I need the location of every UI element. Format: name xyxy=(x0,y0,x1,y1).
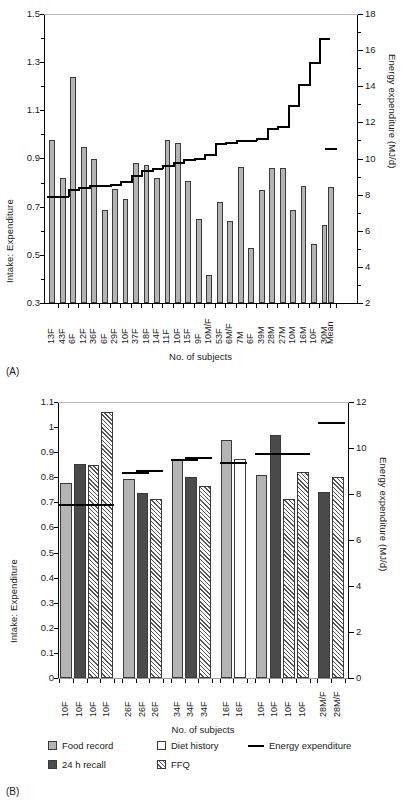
y2-tick-label-b: 4 xyxy=(356,581,376,591)
x-tick-label-b: 26F xyxy=(138,685,147,717)
legend-swatch-line xyxy=(248,745,264,747)
x-tick-a xyxy=(89,304,90,308)
y-tick-label-b: 0.3 xyxy=(24,598,54,608)
bar xyxy=(60,483,72,678)
energy-expenditure-line-mean xyxy=(325,148,337,150)
x-tick-label-a: 16M xyxy=(299,310,308,344)
x-tick-a xyxy=(256,304,257,308)
y2-tick-a xyxy=(358,195,363,196)
x-tick-label-a: 53F xyxy=(215,310,224,344)
bar xyxy=(332,477,344,679)
x-tick-a xyxy=(267,304,268,308)
x-tick-a xyxy=(152,304,153,308)
x-tick-b xyxy=(122,679,123,683)
energy-expenditure-step xyxy=(288,105,299,107)
panel-b-label: (B) xyxy=(6,786,19,797)
x-tick-label-a: 10F xyxy=(309,310,318,344)
x-axis-title-b: No. of subjects xyxy=(58,724,348,735)
x-tick-a xyxy=(99,304,100,308)
bar xyxy=(150,499,162,678)
x-tick-label-a: 6M/F xyxy=(225,310,234,344)
energy-expenditure-riser xyxy=(288,105,290,128)
x-tick-a xyxy=(225,304,226,308)
y-tick-a xyxy=(40,62,44,63)
y2-tick-b xyxy=(349,448,354,449)
x-tick-a xyxy=(319,304,320,308)
x-tick-label-a: 37F xyxy=(131,310,140,344)
bar xyxy=(280,168,286,303)
x-tick-a xyxy=(309,304,310,308)
x-tick-label-a: 18F xyxy=(142,310,151,344)
energy-expenditure-step xyxy=(141,170,152,172)
x-tick-b-end xyxy=(163,679,164,683)
y-tick-b xyxy=(54,452,58,453)
y2-tick-b xyxy=(349,586,354,587)
y2-tick-label-b: 6 xyxy=(356,535,376,545)
energy-expenditure-step xyxy=(78,187,89,189)
y-axis-line-a xyxy=(44,14,45,304)
x-tick-a xyxy=(78,304,79,308)
y2-tick-label-a: 16 xyxy=(365,45,385,55)
legend-swatch-ffq xyxy=(157,760,166,769)
x-tick-b xyxy=(220,679,221,683)
y-axis-title-b: Intake: Expenditure xyxy=(8,457,19,643)
bar xyxy=(290,210,296,303)
x-tick-b xyxy=(171,679,172,683)
bar xyxy=(101,412,113,678)
x-tick-a xyxy=(131,304,132,308)
x-tick-label-b: 10F xyxy=(257,685,266,717)
panel-a-label: (A) xyxy=(6,366,19,377)
bar xyxy=(199,486,211,678)
x-tick-label-b: 10F xyxy=(75,685,84,717)
y-minor-tick-a xyxy=(41,38,44,39)
y2-tick-label-a: 12 xyxy=(365,117,385,127)
bar xyxy=(206,275,212,303)
x-tick-label-a: 9F xyxy=(194,310,203,344)
y-tick-label-b: 1.1 xyxy=(24,397,54,407)
bar xyxy=(283,499,295,678)
y-tick-a xyxy=(40,158,44,159)
bar xyxy=(248,248,254,303)
y2-minor-tick-a xyxy=(358,177,361,178)
bar xyxy=(154,178,160,303)
y-minor-tick-a xyxy=(41,134,44,135)
y2-tick-a xyxy=(358,159,363,160)
energy-expenditure-line xyxy=(122,472,149,474)
y-tick-label-b: 0.9 xyxy=(24,447,54,457)
y-tick-label-b: 0.2 xyxy=(24,623,54,633)
x-tick-a xyxy=(58,304,59,308)
energy-expenditure-line xyxy=(185,457,212,459)
x-tick-label-b: 16F xyxy=(222,685,231,717)
x-tick-label-a: 10F xyxy=(173,310,182,344)
x-tick-label-a: 12F xyxy=(79,310,88,344)
y2-axis-title-b: Energy expenditure (MJ/d) xyxy=(378,457,389,643)
bar xyxy=(196,219,202,303)
energy-expenditure-step xyxy=(215,143,226,145)
x-tick-label-b: 26F xyxy=(151,685,160,717)
x-tick-label-b: 16F xyxy=(235,685,244,717)
panel-a: 0.30.50.70.91.11.31.52468101214161813F43… xyxy=(0,0,408,380)
energy-expenditure-step xyxy=(194,158,205,160)
energy-expenditure-step xyxy=(225,142,236,144)
x-tick-b xyxy=(87,679,88,683)
bar xyxy=(49,140,55,303)
x-tick-label-b: 10F xyxy=(89,685,98,717)
y-tick-label-b: 0.4 xyxy=(24,573,54,583)
y2-axis-title-a: Energy expenditure (MJ/d) xyxy=(387,54,398,283)
y-tick-b xyxy=(54,628,58,629)
panel-b: 00.10.20.30.40.50.60.70.80.911.102468101… xyxy=(0,380,408,805)
y-tick-b xyxy=(54,527,58,528)
y2-tick-a xyxy=(358,231,363,232)
y2-tick-label-a: 8 xyxy=(365,190,385,200)
top-rule-a xyxy=(44,14,358,15)
x-tick-b xyxy=(149,679,150,683)
x-tick-label-b: 10F xyxy=(61,685,70,717)
x-tick-a xyxy=(288,304,289,308)
y2-minor-tick-a xyxy=(358,68,361,69)
y-tick-label-b: 0.5 xyxy=(24,548,54,558)
x-tick-label-a: 6F xyxy=(68,310,77,344)
bar xyxy=(217,202,223,303)
bar xyxy=(234,459,246,679)
energy-expenditure-step xyxy=(89,185,100,187)
x-tick-label-a: 7M xyxy=(236,310,245,344)
